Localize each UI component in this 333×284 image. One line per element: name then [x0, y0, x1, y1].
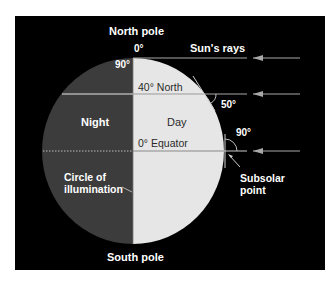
circle-of-illumination-label-line1: Circle of [64, 172, 106, 183]
day-label: Day [167, 117, 187, 128]
angle-90-label: 90° [236, 128, 251, 138]
north-pole-label: North pole [109, 26, 164, 37]
circle-of-illumination-label-line2: illumination [64, 184, 123, 195]
subsolar-label-line1: Subsolar [240, 173, 285, 184]
latitude-40-label: 40° North [138, 82, 182, 93]
south-pole-label: South pole [107, 252, 164, 263]
suns-rays-label: Sun's rays [190, 43, 245, 54]
equator-label: 0° Equator [138, 138, 188, 149]
pole-angle-label: 0° [134, 44, 144, 54]
pole-latitude-label: 90° [115, 60, 130, 70]
angle-50-label: 50° [221, 100, 236, 110]
subsolar-label-line2: point [240, 185, 266, 196]
sun-angle-diagram: North pole 0° Sun's rays 90° 40° North 5… [0, 0, 333, 284]
night-label: Night [81, 117, 109, 128]
